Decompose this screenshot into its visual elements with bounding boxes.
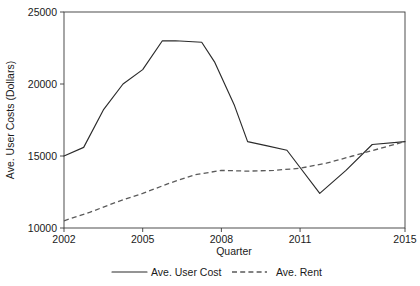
chart-legend: Ave. User Cost Ave. Rent bbox=[112, 266, 322, 278]
x-axis-ticks: 20022005200820112015 bbox=[52, 228, 417, 245]
legend-label-ave-rent: Ave. Rent bbox=[276, 266, 322, 278]
y-tick-label: 15000 bbox=[28, 150, 57, 162]
y-tick-label: 10000 bbox=[28, 222, 57, 234]
y-axis-ticks: 10000150002000025000 bbox=[28, 6, 64, 234]
series-line-ave-rent bbox=[64, 142, 405, 221]
x-tick-label: 2002 bbox=[52, 233, 76, 245]
x-tick-label: 2011 bbox=[289, 233, 312, 245]
x-tick-label: 2015 bbox=[393, 233, 417, 245]
y-tick-label: 25000 bbox=[28, 6, 57, 18]
y-tick-label: 20000 bbox=[28, 78, 57, 90]
series-line-ave-user-cost bbox=[64, 41, 405, 194]
legend-label-ave-user-cost: Ave. User Cost bbox=[151, 266, 221, 278]
plot-frame bbox=[64, 12, 405, 228]
x-axis-title: Quarter bbox=[216, 245, 252, 257]
chart-figure: 10000150002000025000 2002200520082011201… bbox=[0, 0, 420, 286]
line-chart: 10000150002000025000 2002200520082011201… bbox=[0, 0, 420, 286]
y-axis-title: Ave. User Costs (Dollars) bbox=[4, 61, 16, 179]
x-tick-label: 2008 bbox=[210, 233, 234, 245]
data-series-group bbox=[64, 41, 405, 221]
x-tick-label: 2005 bbox=[131, 233, 155, 245]
